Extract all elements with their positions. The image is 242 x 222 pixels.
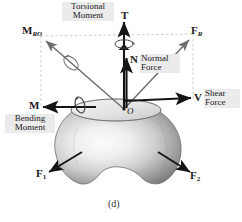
- resultant-moment-subscript-o: O: [37, 30, 42, 38]
- resultant-moment-label: MRO: [22, 25, 42, 38]
- resultant-force-symbol: F: [191, 24, 198, 36]
- resultant-moment-symbol: M: [22, 24, 32, 36]
- force-2-symbol: F: [190, 169, 197, 181]
- bending-moment-label: M: [29, 100, 39, 112]
- torsional-moment-annotation: Torsional Moment: [62, 2, 114, 21]
- origin-label: O: [127, 106, 134, 116]
- force-1-symbol: F: [36, 167, 43, 179]
- construction-line-top: [41, 34, 193, 36]
- figure-caption: (d): [108, 198, 120, 209]
- shear-force-label: V: [194, 92, 202, 104]
- shear-force-symbol: V: [194, 91, 202, 103]
- torsional-moment-annotation-line2: Moment: [63, 11, 113, 20]
- force-1-label: F1: [36, 168, 46, 181]
- force-2-subscript: 2: [197, 175, 201, 183]
- bending-moment-annotation: Bending Moment: [5, 114, 55, 133]
- deformable-body: [55, 99, 181, 184]
- torsional-moment-symbol: T: [121, 9, 128, 21]
- force-1-subscript: 1: [43, 173, 47, 181]
- normal-force-annotation: Normal Force: [140, 54, 180, 73]
- shear-force-annotation-line2: Force: [205, 98, 239, 107]
- torsional-moment-second-head: [119, 44, 130, 50]
- resultant-moment-vector: [46, 41, 124, 109]
- torsional-moment-label: T: [121, 10, 128, 22]
- normal-force-label: N: [130, 54, 138, 66]
- normal-force-symbol: N: [130, 53, 138, 65]
- resultant-force-subscript: R: [198, 30, 203, 38]
- force-2-label: F2: [190, 170, 200, 183]
- shear-force-annotation: Shear Force: [204, 89, 240, 108]
- bending-moment-symbol: M: [29, 99, 39, 111]
- free-body-diagram-figure: Torsional Moment T MRO FR N Normal Force…: [0, 0, 242, 222]
- bending-moment-annotation-line2: Moment: [6, 123, 54, 132]
- origin-point: [122, 107, 125, 110]
- normal-force-annotation-line2: Force: [141, 63, 179, 72]
- resultant-force-label: FR: [191, 25, 202, 38]
